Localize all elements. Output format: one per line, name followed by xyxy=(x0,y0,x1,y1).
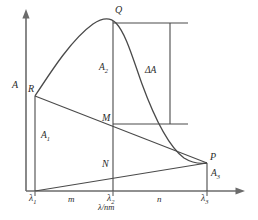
tick-label-lambda1-subscript: 1 xyxy=(33,198,36,205)
point-label-q: Q xyxy=(115,5,122,15)
point-label-p: P xyxy=(210,152,216,162)
x-axis-arrowhead xyxy=(236,187,246,194)
y-axis-arrowhead xyxy=(22,9,29,19)
label-a1-subscript: 1 xyxy=(47,135,50,142)
point-label-n: N xyxy=(102,159,109,169)
label-a1: A1 xyxy=(41,131,50,142)
interval-label-m: m xyxy=(68,195,75,204)
point-label-r: R xyxy=(28,84,34,94)
label-a2-subscript: 2 xyxy=(105,67,108,74)
tick-label-lambda3: λ3 xyxy=(201,194,208,205)
y-axis xyxy=(22,9,29,191)
label-a3-subscript: 3 xyxy=(217,173,220,180)
tick-label-lambda2-subscript: 2 xyxy=(111,198,114,205)
chord-r-p xyxy=(35,96,207,163)
label-delta-a: ΔA xyxy=(145,66,156,76)
chord-base-p xyxy=(35,163,207,191)
absorption-curve xyxy=(35,19,207,163)
tick-label-lambda1: λ1 xyxy=(29,194,36,205)
label-a2: A2 xyxy=(99,63,108,74)
point-label-m: M xyxy=(102,113,110,123)
interval-label-n: n xyxy=(157,195,162,204)
x-axis xyxy=(26,187,245,194)
tick-label-lambda3-subscript: 3 xyxy=(205,198,208,205)
absorbance-wavelength-diagram: A λ/nm Q R M N P A1 A2 A3 ΔA λ1 λ2 λ3 m … xyxy=(0,0,258,220)
diagram-canvas xyxy=(0,0,258,220)
label-a3: A3 xyxy=(211,169,220,180)
tick-label-lambda2: λ2 xyxy=(107,194,114,205)
y-axis-label: A xyxy=(12,80,18,90)
